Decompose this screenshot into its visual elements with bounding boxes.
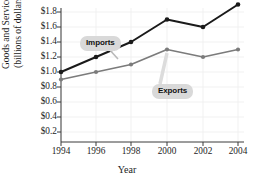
series-label-imports: Imports	[80, 36, 121, 51]
y-tick-label: $1.6	[24, 22, 57, 31]
y-axis-title: Goods and Services (billions of dollars)	[0, 0, 26, 94]
series-label-exports: Exports	[152, 84, 193, 99]
y-tick-label: $1.0	[24, 67, 57, 76]
y-axis-title-line2: (billions of dollars)	[12, 0, 24, 94]
x-tick-label: 1994	[52, 146, 71, 156]
series-exports	[59, 47, 240, 81]
y-tick-label: $0.8	[24, 82, 57, 91]
x-tick-label: 1996	[87, 146, 106, 156]
vertical-gridlines	[61, 8, 238, 142]
exports-leader-line	[160, 53, 167, 84]
horizontal-gridlines	[61, 12, 244, 132]
y-tick-label: $1.8	[24, 7, 57, 16]
x-axis-tick-labels: 1994 1996 1998 2000 2002 2004	[0, 146, 254, 160]
y-axis-title-line1: Goods and Services	[0, 0, 11, 69]
x-axis-title: Year	[0, 164, 254, 175]
y-tick-label: $0.4	[24, 112, 57, 121]
x-tick-label: 2002	[194, 146, 213, 156]
y-tick-label: $1.4	[24, 37, 57, 46]
line-chart: $1.8 $1.6 $1.4 $1.2 $1.0 $0.8 $0.6 $0.4 …	[0, 0, 254, 183]
y-tick-label: $0.2	[24, 127, 57, 136]
x-tick-label: 1998	[122, 146, 141, 156]
exports-markers	[59, 47, 240, 81]
x-tick-label: 2004	[229, 146, 248, 156]
y-tick-label: $1.2	[24, 52, 57, 61]
x-tick-label: 2000	[158, 146, 177, 156]
y-tick-label: $0.6	[24, 97, 57, 106]
